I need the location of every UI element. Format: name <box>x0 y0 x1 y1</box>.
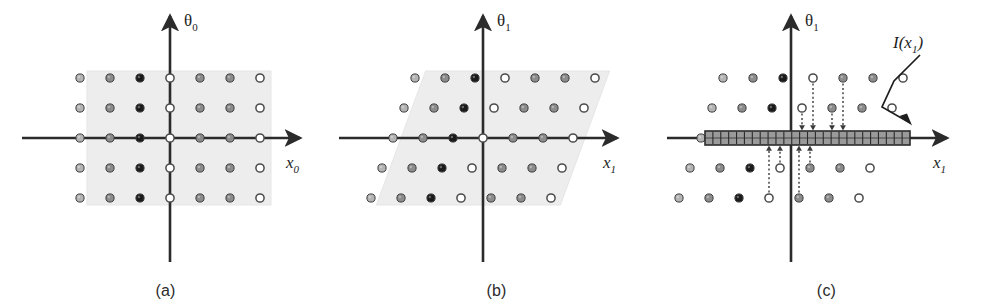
caption-a: (a) <box>0 282 331 300</box>
interval-bar-label: I(x1) <box>892 33 923 55</box>
interval-bar-c <box>705 131 910 145</box>
svg-text:I(x1): I(x1) <box>892 33 923 55</box>
panel-b-canvas: θ1 x1 <box>331 0 662 308</box>
axis-label-x-c: x1 <box>932 153 946 175</box>
axis-label-y-c: θ1 <box>805 11 819 33</box>
svg-text:θ1: θ1 <box>497 11 511 33</box>
theta-symbol-c: θ <box>805 11 813 30</box>
interval-label-head: I(x <box>892 33 912 52</box>
axis-label-y-b: θ1 <box>497 11 511 33</box>
axis-label-y-a: θ0 <box>184 11 198 33</box>
theta-subscript-a: 0 <box>192 21 198 33</box>
panel-a-canvas: θ0 x0 <box>0 0 331 308</box>
svg-text:x1: x1 <box>602 153 616 175</box>
svg-text:x0: x0 <box>285 153 300 175</box>
panel-a: θ0 x0 (a) <box>0 0 331 308</box>
panel-c: I(x1) θ1 x1 (c) <box>661 0 992 308</box>
svg-text:x1: x1 <box>932 153 946 175</box>
svg-text:θ1: θ1 <box>805 11 819 33</box>
theta-symbol-a: θ <box>184 11 192 30</box>
x-subscript-b: 1 <box>611 163 617 175</box>
interval-label-tail: ) <box>916 33 923 52</box>
x-subscript-a: 0 <box>294 163 300 175</box>
panel-b: θ1 x1 (b) <box>331 0 662 308</box>
x-subscript-c: 1 <box>941 163 947 175</box>
caption-b: (b) <box>331 282 662 300</box>
theta-symbol-b: θ <box>497 11 505 30</box>
svg-text:θ0: θ0 <box>184 11 198 33</box>
axis-label-x-a: x0 <box>285 153 300 175</box>
figure-root: θ0 x0 (a) θ1 <box>0 0 992 308</box>
axis-label-x-b: x1 <box>602 153 616 175</box>
theta-subscript-c: 1 <box>813 21 819 33</box>
caption-c: (c) <box>661 282 992 300</box>
panel-c-canvas: I(x1) θ1 x1 <box>661 0 992 308</box>
theta-subscript-b: 1 <box>505 21 511 33</box>
interval-bar-leader-line <box>882 55 920 126</box>
